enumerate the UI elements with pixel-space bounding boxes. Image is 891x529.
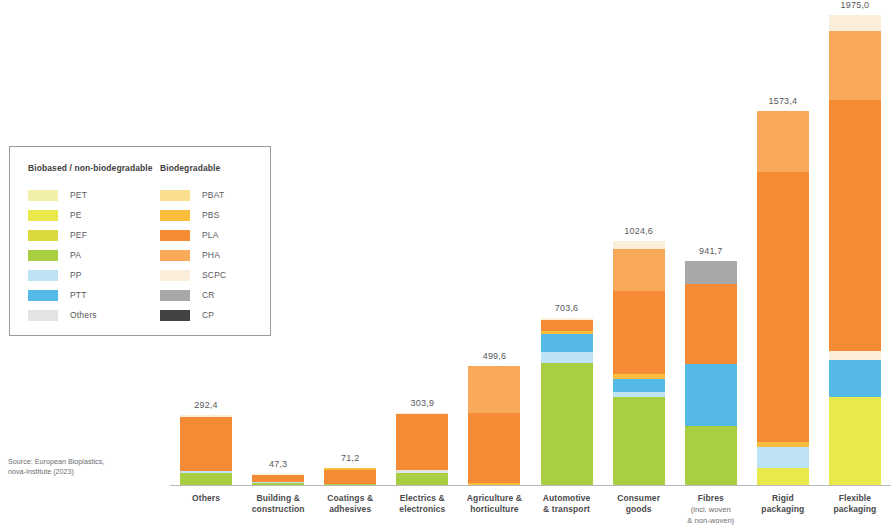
legend-heading-biobased: Biobased / non-biodegradable [28, 163, 136, 173]
legend-item: PET [28, 185, 136, 205]
legend-label-pa: PA [70, 250, 81, 260]
category-label: Automotive& transport [531, 493, 603, 515]
bar-value-label: 47,3 [269, 459, 287, 469]
stacked-bar[interactable] [324, 468, 376, 485]
bar-segment-pp [757, 447, 809, 468]
bar-segment-pla [252, 475, 304, 482]
stacked-bar[interactable] [180, 415, 232, 485]
bar-segment-ptt [613, 379, 665, 392]
legend-item: Others [28, 305, 136, 325]
bar-segment-pa [685, 426, 737, 485]
category-label-sub: (incl. woven [691, 505, 731, 514]
legend-swatch-pe [28, 210, 58, 221]
bar-segment-pa [396, 473, 448, 485]
bar-segment-pla [396, 414, 448, 470]
bar-segment-pha [468, 366, 520, 413]
legend-label-pe: PE [70, 210, 82, 220]
bar-segment-pe [757, 468, 809, 485]
category-label: Building &construction [242, 493, 314, 515]
legend-label-pef: PEF [70, 230, 87, 240]
bar-value-label: 703,6 [555, 303, 579, 313]
bar-value-label: 303,9 [411, 398, 435, 408]
legend-item: PTT [28, 285, 136, 305]
legend-label-pet: PET [70, 190, 87, 200]
bar-segment-pla [829, 100, 881, 351]
stacked-bar[interactable] [757, 111, 809, 485]
category-label: Consumergoods [603, 493, 675, 515]
legend-column-biobased: Biobased / non-biodegradable PET PE PEF … [28, 163, 136, 325]
stacked-bar[interactable] [468, 366, 520, 485]
category-label-sub: & non-woven) [687, 516, 734, 525]
legend-swatch-others [28, 310, 58, 321]
bar-segment-pla [324, 470, 376, 484]
chart-category-axis: OthersBuilding &constructionCoatings &ad… [170, 485, 891, 529]
bar-segment-pha [757, 111, 809, 172]
legend-items-biobased: PET PE PEF PA PP [28, 185, 136, 325]
bar-value-label: 941,7 [699, 246, 723, 256]
legend-item: PP [28, 265, 136, 285]
bar-value-label: 1573,4 [768, 96, 797, 106]
bar-segment-pla [468, 413, 520, 483]
legend-swatch-pet [28, 190, 58, 201]
bar-group: 1024,6 [603, 0, 675, 485]
legend-swatch-pef [28, 230, 58, 241]
bar-segment-ptt [829, 360, 881, 397]
category-label: Fibres(incl. woven& non-woven) [675, 493, 747, 526]
category-label: Flexiblepackaging [819, 493, 891, 515]
bar-group: 499,6 [458, 0, 530, 485]
bar-segment-pa [180, 473, 232, 485]
category-label: Others [170, 493, 242, 504]
bar-segment-pp [541, 352, 593, 363]
source-note: Source: European Bioplastics,nova-Instit… [8, 457, 178, 478]
bar-value-label: 71,2 [341, 453, 359, 463]
bar-segment-pla [757, 172, 809, 442]
bar-segment-pla [541, 320, 593, 331]
stacked-bar[interactable] [685, 261, 737, 485]
bar-segment-ptt [541, 334, 593, 352]
bar-value-label: 1024,6 [624, 226, 653, 236]
bar-segment-pla [613, 291, 665, 374]
bar-segment-pha [829, 31, 881, 100]
legend-item: PEF [28, 225, 136, 245]
bar-segment-pla [685, 284, 737, 364]
bar-segment-scpc [829, 351, 881, 361]
bar-segment-pe [829, 397, 881, 485]
bar-group: 47,3 [242, 0, 314, 485]
bar-group: 292,4 [170, 0, 242, 485]
bar-segment-pha [613, 249, 665, 291]
category-label: Agriculture &horticulture [458, 493, 530, 515]
bar-segment-scpc [829, 15, 881, 30]
stacked-bar[interactable] [252, 474, 304, 485]
bar-segment-pla [180, 417, 232, 471]
legend-label-ptt: PTT [70, 290, 87, 300]
bar-value-label: 499,6 [483, 351, 507, 361]
category-label: Coatings &adhesives [314, 493, 386, 515]
legend-item: PE [28, 205, 136, 225]
bar-group: 703,6 [531, 0, 603, 485]
bar-group: 1975,0 [819, 0, 891, 485]
bar-value-label: 1975,0 [841, 0, 870, 10]
bar-group: 303,9 [386, 0, 458, 485]
stacked-bar[interactable] [613, 241, 665, 485]
chart-plot-area: 292,447,371,2303,9499,6703,61024,6941,71… [170, 0, 891, 485]
legend-swatch-pa [28, 250, 58, 261]
bar-group: 941,7 [675, 0, 747, 485]
bar-group: 71,2 [314, 0, 386, 485]
stacked-bar[interactable] [541, 318, 593, 485]
bar-segment-pa [613, 397, 665, 485]
bar-segment-scpc [613, 241, 665, 249]
category-label: Rigidpackaging [747, 493, 819, 515]
bar-segment-pa [541, 363, 593, 485]
category-label: Electrics &electronics [386, 493, 458, 515]
legend-swatch-ptt [28, 290, 58, 301]
stacked-bar[interactable] [396, 413, 448, 485]
bar-value-label: 292,4 [194, 400, 218, 410]
legend-label-others: Others [70, 310, 97, 320]
legend-item: PA [28, 245, 136, 265]
bar-segment-cr [685, 261, 737, 284]
bar-group: 1573,4 [747, 0, 819, 485]
bar-segment-ptt [685, 364, 737, 426]
stacked-bar[interactable] [829, 15, 881, 485]
legend-swatch-pp [28, 270, 58, 281]
legend-label-pp: PP [70, 270, 82, 280]
